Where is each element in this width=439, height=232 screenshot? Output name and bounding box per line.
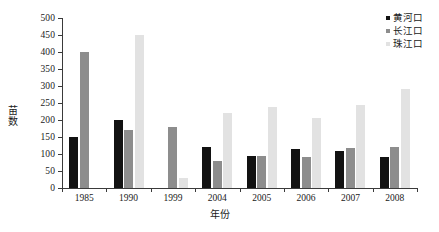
bar-黄河口-2005: [247, 156, 256, 188]
y-tick-label: 200: [40, 115, 55, 125]
chart-legend: 黄河口长江口珠江口: [386, 11, 423, 50]
bar-chart: 苗数 050100150200250300350400450500 198519…: [0, 0, 439, 232]
x-tick-mark: [62, 188, 63, 192]
bar-长江口-2005: [257, 156, 266, 188]
y-tick-mark: [58, 69, 62, 70]
bar-长江口-2008: [390, 147, 399, 188]
x-tick-label: 1990: [119, 193, 138, 203]
legend-item: 珠江口: [386, 37, 423, 50]
y-tick-label: 350: [40, 64, 55, 74]
x-tick-label: 2005: [252, 193, 271, 203]
y-tick-mark: [58, 137, 62, 138]
bar-长江口-1999: [168, 127, 177, 188]
x-tick-label: 2006: [297, 193, 316, 203]
y-tick-mark: [58, 120, 62, 121]
y-tick-label: 500: [40, 13, 55, 23]
y-axis-title: 苗数: [6, 105, 19, 127]
bar-长江口-1985: [80, 52, 89, 188]
bar-黄河口-2008: [380, 157, 389, 188]
bar-黄河口-2007: [335, 151, 344, 188]
y-tick-mark: [58, 52, 62, 53]
x-tick-mark: [284, 188, 285, 192]
square-swatch-icon: [386, 29, 390, 33]
x-tick-mark: [417, 188, 418, 192]
legend-label: 珠江口: [393, 37, 423, 50]
y-tick-mark: [58, 18, 62, 19]
y-tick-mark: [58, 35, 62, 36]
legend-item: 黄河口: [386, 11, 423, 24]
bar-长江口-2004: [213, 161, 222, 188]
square-swatch-icon: [386, 42, 390, 46]
bar-长江口-2007: [346, 148, 355, 188]
x-tick-label: 2008: [385, 193, 404, 203]
square-swatch-icon: [386, 16, 390, 20]
legend-label: 黄河口: [393, 11, 423, 24]
x-tick-mark: [195, 188, 196, 192]
y-tick-label: 250: [40, 98, 55, 108]
bar-珠江口-2005: [268, 107, 277, 188]
y-tick-label: 150: [40, 132, 55, 142]
plot-area: 050100150200250300350400450500 198519901…: [62, 18, 417, 188]
y-tick-label: 0: [50, 183, 55, 193]
bar-黄河口-2004: [202, 147, 211, 188]
bar-珠江口-2006: [312, 118, 321, 188]
y-tick-mark: [58, 171, 62, 172]
x-tick-label: 1985: [75, 193, 94, 203]
bar-黄河口-1985: [69, 137, 78, 188]
bar-珠江口-2007: [356, 105, 365, 188]
x-tick-label: 1999: [163, 193, 182, 203]
y-tick-mark: [58, 154, 62, 155]
y-tick-mark: [58, 103, 62, 104]
y-tick-label: 400: [40, 47, 55, 57]
bar-黄河口-1990: [114, 120, 123, 188]
x-tick-label: 2004: [208, 193, 227, 203]
legend-item: 长江口: [386, 24, 423, 37]
x-tick-mark: [151, 188, 152, 192]
x-axis-title: 年份: [0, 206, 439, 221]
y-tick-mark: [58, 86, 62, 87]
y-tick-label: 450: [40, 30, 55, 40]
y-tick-label: 300: [40, 81, 55, 91]
legend-label: 长江口: [393, 24, 423, 37]
y-tick-label: 100: [40, 149, 55, 159]
y-axis-line: [62, 18, 63, 188]
x-tick-mark: [240, 188, 241, 192]
bar-珠江口-1999: [179, 178, 188, 188]
bar-珠江口-2008: [401, 89, 410, 188]
bar-珠江口-2004: [223, 113, 232, 188]
x-tick-label: 2007: [341, 193, 360, 203]
bar-黄河口-2006: [291, 149, 300, 188]
x-tick-mark: [106, 188, 107, 192]
bar-长江口-1990: [124, 130, 133, 188]
bar-珠江口-1990: [135, 35, 144, 188]
x-tick-mark: [373, 188, 374, 192]
bar-长江口-2006: [302, 157, 311, 188]
y-tick-label: 50: [45, 166, 55, 176]
x-tick-mark: [328, 188, 329, 192]
